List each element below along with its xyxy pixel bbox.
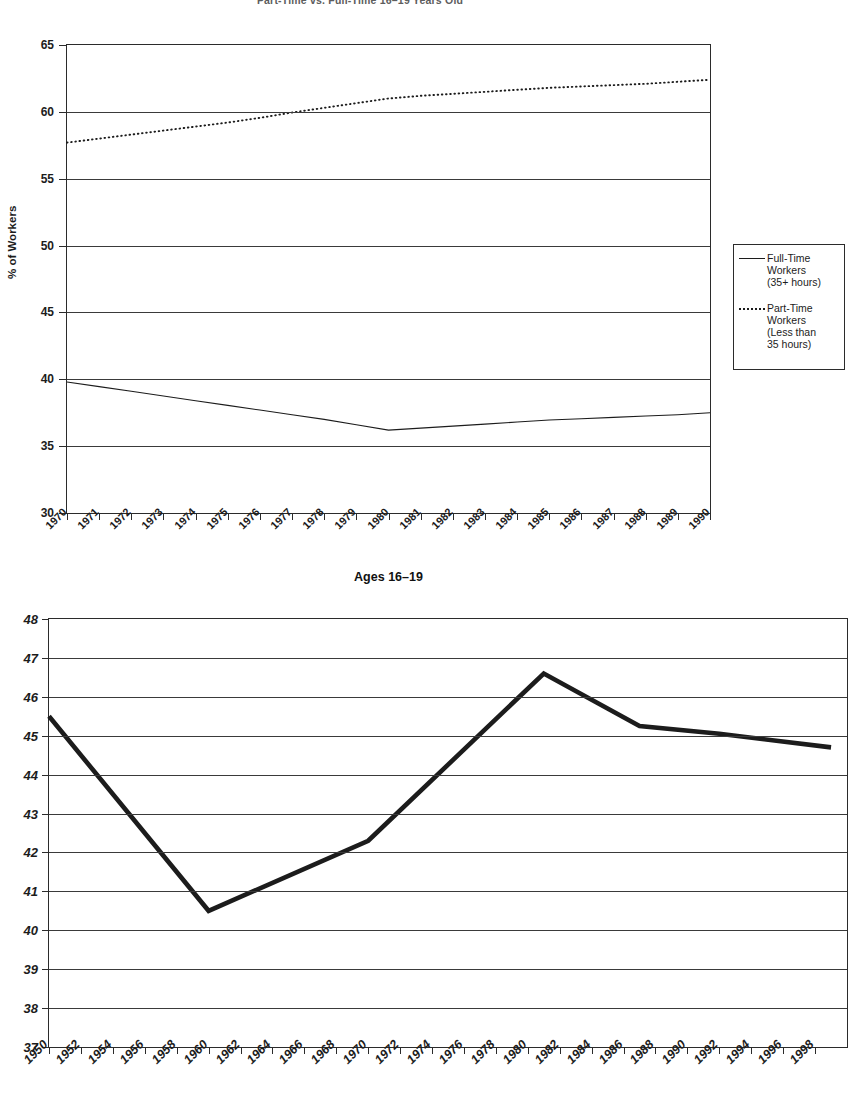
series-line: [49, 673, 831, 910]
legend-label-line: (35+ hours): [767, 276, 821, 288]
chart-part-time-vs-full-time: Part-Time vs. Full-Time 16–19 Years Old …: [0, 0, 865, 600]
y-tick-mark: [42, 969, 48, 970]
x-tick-mark: [272, 1048, 273, 1054]
legend-item[interactable]: Full-TimeWorkers(35+ hours): [739, 252, 839, 289]
y-tick-label: 47: [8, 650, 38, 665]
y-tick-label: 46: [8, 689, 38, 704]
chart-lower-trend: 4847464544434241403938371950195219541956…: [0, 600, 865, 1107]
x-tick-mark: [49, 1048, 50, 1054]
series-line: [67, 382, 710, 430]
grid-line: [49, 1008, 847, 1009]
y-tick-mark: [59, 446, 66, 447]
y-tick-label: 35: [20, 439, 54, 453]
y-tick-label: 55: [20, 172, 54, 186]
y-tick-mark: [42, 930, 48, 931]
y-tick-label: 65: [20, 38, 54, 52]
y-tick-mark: [42, 852, 48, 853]
grid-line: [49, 697, 847, 698]
grid-line: [67, 379, 710, 380]
y-tick-label: 45: [8, 728, 38, 743]
y-tick-mark: [42, 891, 48, 892]
grid-line: [49, 736, 847, 737]
x-tick-mark: [655, 1048, 656, 1054]
y-tick-label: 44: [8, 767, 38, 782]
legend-label-line: 35 hours): [767, 338, 816, 350]
legend-item[interactable]: Part-TimeWorkers(Less than35 hours): [739, 302, 839, 351]
y-tick-label: 50: [20, 239, 54, 253]
x-tick-mark: [368, 1048, 369, 1054]
grid-line: [49, 969, 847, 970]
legend-label-line: Full-Time: [767, 252, 821, 264]
x-tick-mark: [751, 1048, 752, 1054]
dotted-line-icon: [739, 302, 765, 314]
y-tick-mark: [42, 814, 48, 815]
x-axis-label: Ages 16–19: [66, 570, 711, 584]
legend-label-line: Workers: [767, 314, 816, 326]
y-tick-label: 60: [20, 105, 54, 119]
legend-item-label: Full-TimeWorkers(35+ hours): [767, 252, 821, 289]
y-tick-mark: [59, 112, 66, 113]
y-tick-label: 45: [20, 305, 54, 319]
x-tick-mark: [336, 1048, 337, 1054]
x-tick-mark: [815, 1048, 816, 1054]
grid-line: [49, 775, 847, 776]
series-lines: [49, 619, 847, 1047]
y-tick-label: 39: [8, 962, 38, 977]
y-tick-mark: [42, 1008, 48, 1009]
grid-line: [49, 891, 847, 892]
grid-line: [67, 246, 710, 247]
y-tick-label: 43: [8, 806, 38, 821]
solid-line-icon: [739, 252, 765, 264]
legend-label-line: (Less than: [767, 326, 816, 338]
grid-line: [67, 446, 710, 447]
x-tick-mark: [719, 1048, 720, 1054]
legend-label-line: Part-Time: [767, 302, 816, 314]
y-tick-mark: [42, 658, 48, 659]
grid-line: [49, 658, 847, 659]
y-tick-label: 40: [20, 372, 54, 386]
x-tick-mark: [400, 1048, 401, 1054]
x-tick-mark: [304, 1048, 305, 1054]
y-tick-label: 38: [8, 1001, 38, 1016]
x-tick-mark: [113, 1048, 114, 1054]
y-tick-label: 48: [8, 612, 38, 627]
x-tick-mark: [432, 1048, 433, 1054]
y-tick-mark: [42, 775, 48, 776]
y-tick-mark: [59, 246, 66, 247]
y-tick-mark: [42, 697, 48, 698]
y-tick-mark: [59, 379, 66, 380]
series-lines: [67, 45, 710, 513]
grid-line: [67, 179, 710, 180]
y-tick-mark: [59, 312, 66, 313]
legend-label-line: Workers: [767, 264, 821, 276]
y-tick-label: 42: [8, 845, 38, 860]
y-tick-mark: [42, 619, 48, 620]
x-tick-mark: [81, 1048, 82, 1054]
x-tick-mark: [464, 1048, 465, 1054]
y-tick-mark: [59, 45, 66, 46]
x-tick-mark: [687, 1048, 688, 1054]
x-tick-mark: [528, 1048, 529, 1054]
y-tick-mark: [42, 736, 48, 737]
legend-item-label: Part-TimeWorkers(Less than35 hours): [767, 302, 816, 351]
grid-line: [49, 930, 847, 931]
y-tick-label: 40: [8, 923, 38, 938]
chart-legend: Full-TimeWorkers(35+ hours)Part-TimeWork…: [733, 244, 845, 370]
x-tick-mark: [783, 1048, 784, 1054]
y-tick-label: 41: [8, 884, 38, 899]
grid-line: [49, 814, 847, 815]
y-tick-mark: [59, 179, 66, 180]
plot-area: [66, 44, 711, 514]
grid-line: [49, 852, 847, 853]
grid-line: [67, 112, 710, 113]
x-tick-mark: [496, 1048, 497, 1054]
chart-title: Part-Time vs. Full-Time 16–19 Years Old: [0, 0, 720, 6]
grid-line: [67, 312, 710, 313]
y-axis-label: % of Workers: [6, 206, 18, 279]
plot-area: [48, 618, 848, 1048]
